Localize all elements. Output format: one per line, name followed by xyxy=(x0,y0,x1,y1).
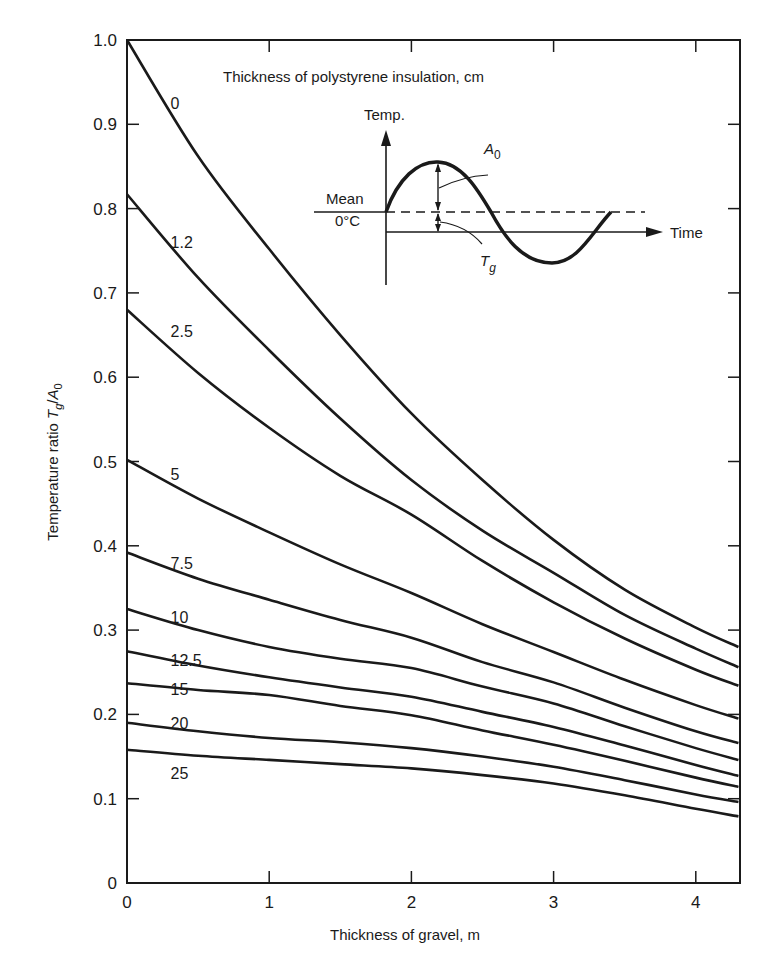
y-tick-label: 0.8 xyxy=(93,200,117,219)
x-tick-label: 4 xyxy=(691,893,700,912)
curve-20 xyxy=(127,723,738,802)
y-tick-label: 0.1 xyxy=(93,790,117,809)
curve-label: 0 xyxy=(171,95,180,112)
curve-25 xyxy=(127,750,738,817)
time-axis-arrow-icon xyxy=(646,227,663,237)
curve-5 xyxy=(127,460,738,719)
curve-0 xyxy=(127,40,738,647)
x-axis-title: Thickness of gravel, m xyxy=(330,926,480,943)
x-tick-label: 0 xyxy=(122,893,131,912)
inset-amplitude-label: A0 xyxy=(483,140,501,162)
curve-label: 5 xyxy=(171,466,180,483)
curve-label: 15 xyxy=(171,681,189,698)
y-tick-label: 0 xyxy=(108,874,117,893)
curve-label: 10 xyxy=(171,609,189,626)
inset-temp-label: Temp. xyxy=(364,106,405,123)
curve-10 xyxy=(127,609,738,760)
curve-label: 25 xyxy=(171,765,189,782)
temp-axis-arrow-icon xyxy=(381,130,391,146)
curve-label: 2.5 xyxy=(171,323,193,340)
y-tick-label: 0.5 xyxy=(93,453,117,472)
curve-label: 20 xyxy=(171,715,189,732)
y-tick-label: 0.3 xyxy=(93,621,117,640)
y-tick-label: 1.0 xyxy=(93,31,117,50)
y-tick-label: 0.7 xyxy=(93,284,117,303)
y-tick-label: 0.6 xyxy=(93,368,117,387)
x-tick-label: 1 xyxy=(264,893,273,912)
inset-zero-label: 0°C xyxy=(335,212,360,229)
inset-mean-label: Mean xyxy=(326,190,364,207)
x-tick-label: 2 xyxy=(407,893,416,912)
y-tick-label: 0.9 xyxy=(93,115,117,134)
y-axis-ticks: 00.10.20.30.40.50.60.70.80.91.0 xyxy=(93,31,740,893)
y-tick-label: 0.2 xyxy=(93,705,117,724)
chart-title: Thickness of polystyrene insulation, cm xyxy=(223,68,484,85)
x-tick-label: 3 xyxy=(549,893,558,912)
curve-label: 1.2 xyxy=(171,234,193,251)
y-tick-label: 0.4 xyxy=(93,537,117,556)
inset-diagram: Temp. Time Mean 0°C A0 Tg xyxy=(314,106,703,285)
curve-labels: 01.22.557.51012.5152025 xyxy=(171,95,202,782)
y-axis-title: Temperature ratio Tg/A0 xyxy=(44,383,64,540)
curve-label: 12.5 xyxy=(171,652,202,669)
inset-time-label: Time xyxy=(670,224,703,241)
curve-label: 7.5 xyxy=(171,555,193,572)
x-axis-ticks: 01234 xyxy=(122,871,700,912)
data-curves xyxy=(127,40,738,816)
inset-tg-label: Tg xyxy=(480,252,496,275)
curve-1-2 xyxy=(127,194,738,667)
chart-canvas: 01234 00.10.20.30.40.50.60.70.80.91.0 01… xyxy=(0,0,773,970)
